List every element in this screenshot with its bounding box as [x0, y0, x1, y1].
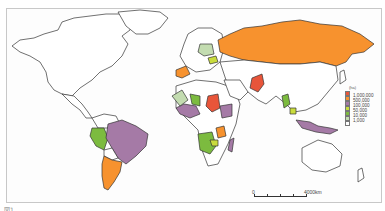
- region-tanzania: [216, 126, 226, 138]
- scale-tick: [267, 194, 268, 197]
- region-peru: [90, 128, 108, 150]
- legend-swatch-white: [345, 121, 350, 126]
- legend-label: 1,000: [353, 118, 365, 123]
- world-map: [0, 0, 385, 211]
- region-indonesia: [296, 120, 338, 134]
- region-japan: [340, 70, 346, 84]
- region-central-america: [62, 94, 92, 118]
- region-russia: [218, 20, 374, 66]
- figure-caption: 図1 …: [4, 205, 22, 211]
- legend-unit: (ha): [349, 85, 356, 90]
- region-ethiopia: [220, 104, 232, 118]
- scale-tick: [254, 194, 255, 197]
- region-new-zealand: [358, 168, 364, 182]
- scale-tick: [293, 194, 294, 197]
- region-argentina: [102, 156, 122, 190]
- region-australia: [302, 140, 342, 172]
- region-spain: [176, 66, 190, 78]
- region-thailand: [290, 108, 296, 114]
- scale-tick: [280, 194, 281, 197]
- scale-end-label: 4000km: [304, 189, 322, 195]
- region-north-america: [12, 14, 132, 96]
